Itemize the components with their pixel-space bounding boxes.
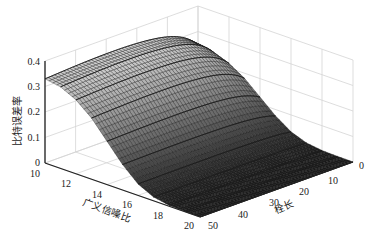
surface-plot: 0 0.1 0.2 0.3 0.4 10 12 14 16 18 20 50 4… <box>0 0 370 231</box>
y-tick-0: 0 <box>359 160 364 171</box>
x-tick-16: 16 <box>122 199 132 210</box>
z-axis-label: 比特误差率 <box>11 96 23 146</box>
z-tick-0.3: 0.3 <box>28 81 41 92</box>
x-tick-12: 12 <box>61 178 71 189</box>
y-tick-50: 50 <box>208 220 218 231</box>
x-tick-10: 10 <box>30 168 40 179</box>
y-tick-10: 10 <box>328 175 338 186</box>
x-tick-18: 18 <box>153 210 163 221</box>
y-tick-40: 40 <box>238 209 248 220</box>
z-tick-0.4: 0.4 <box>28 56 41 67</box>
x-tick-20: 20 <box>184 220 194 231</box>
z-tick-0: 0 <box>35 157 40 168</box>
z-tick-0.2: 0.2 <box>28 106 41 117</box>
z-tick-0.1: 0.1 <box>28 132 41 143</box>
y-tick-20: 20 <box>299 186 309 197</box>
x-tick-14: 14 <box>92 189 102 200</box>
